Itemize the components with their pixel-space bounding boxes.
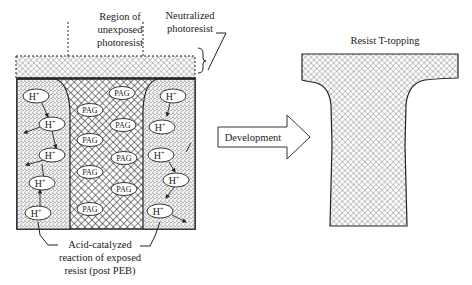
- pag-4: PAG: [77, 134, 103, 147]
- t-topping-diagram: Region of unexposed photoresist Neutrali…: [0, 0, 472, 285]
- neutralized-layer: [16, 56, 195, 78]
- h-ion: H+: [147, 204, 173, 218]
- label-acid-catalyzed: Acid-catalyzed reaction of exposed resis…: [59, 239, 142, 277]
- h-ion: H+: [25, 206, 51, 220]
- h-ion: H+: [163, 173, 189, 187]
- svg-text:resist (post PEB): resist (post PEB): [64, 265, 136, 277]
- svg-text:photoresist: photoresist: [97, 37, 143, 48]
- h-ion: H+: [39, 117, 65, 131]
- svg-text:PAG: PAG: [82, 106, 97, 115]
- h-ion: H+: [160, 89, 186, 103]
- svg-text:PAG: PAG: [116, 185, 131, 194]
- h-ion: H+: [29, 176, 55, 190]
- svg-text:Acid-catalyzed: Acid-catalyzed: [68, 239, 132, 250]
- pag-5: PAG: [111, 152, 137, 165]
- svg-text:Region of: Region of: [99, 11, 141, 22]
- svg-text:PAG: PAG: [82, 168, 97, 177]
- h-ion: H+: [148, 148, 174, 162]
- svg-text:PAG: PAG: [115, 121, 130, 130]
- svg-text:photoresist: photoresist: [167, 23, 213, 34]
- h-ion: H+: [149, 120, 175, 134]
- pag-2: PAG: [77, 104, 103, 117]
- t-topping-title: Resist T-topping: [350, 35, 420, 46]
- svg-text:PAG: PAG: [82, 136, 97, 145]
- pag-8: PAG: [77, 203, 103, 216]
- pag-7: PAG: [111, 183, 137, 196]
- neutralized-brace: [198, 48, 206, 73]
- h-ion: H+: [23, 89, 49, 103]
- label-region-unexposed: Region of unexposed photoresist: [97, 11, 143, 48]
- svg-text:PAG: PAG: [82, 205, 97, 214]
- pag-1: PAG: [109, 87, 135, 100]
- svg-text:Neutralized: Neutralized: [166, 10, 216, 21]
- pag-3: PAG: [110, 119, 136, 132]
- svg-text:reaction of exposed: reaction of exposed: [59, 252, 142, 263]
- svg-text:PAG: PAG: [116, 154, 131, 163]
- t-topped-resist-profile: [302, 54, 458, 226]
- pag-6: PAG: [77, 166, 103, 179]
- svg-text:PAG: PAG: [114, 89, 129, 98]
- h-ion: H+: [39, 148, 65, 162]
- neutralized-leader-line: [208, 33, 226, 70]
- development-label: Development: [225, 132, 282, 143]
- svg-text:unexposed: unexposed: [98, 24, 144, 35]
- label-neutralized: Neutralized photoresist: [166, 10, 216, 34]
